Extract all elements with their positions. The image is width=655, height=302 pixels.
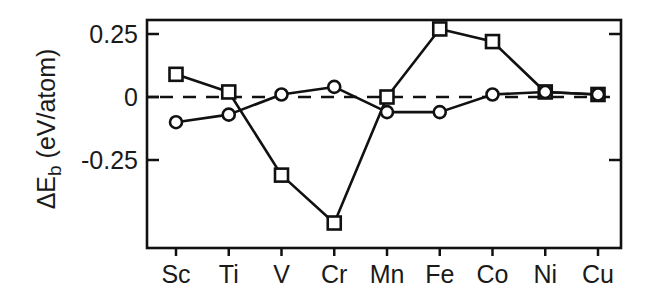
x-axis-ticks: ScTiVCrMnFeCoNiCu: [161, 248, 614, 288]
circle-marker: [223, 109, 235, 121]
circle-marker: [276, 88, 288, 100]
x-tick-label-sc: Sc: [161, 260, 190, 288]
square-marker: [433, 22, 446, 35]
circle-marker: [434, 106, 446, 118]
square-marker: [486, 35, 499, 48]
y-axis-label: ΔEb (eV/atom): [32, 49, 65, 210]
series-squares: [170, 22, 605, 229]
y-tick-label: 0.25: [89, 20, 138, 48]
y-tick-label: 0: [124, 83, 138, 111]
x-tick-label-ti: Ti: [219, 260, 239, 288]
circle-marker: [381, 106, 393, 118]
svg-text:ΔEb (eV/atom): ΔEb (eV/atom): [32, 49, 65, 210]
series-line: [176, 29, 598, 223]
x-tick-label-cr: Cr: [321, 260, 347, 288]
square-marker: [170, 68, 183, 81]
x-tick-label-mn: Mn: [370, 260, 405, 288]
plot-frame: [147, 20, 621, 248]
x-tick-label-fe: Fe: [425, 260, 454, 288]
x-tick-label-cu: Cu: [582, 260, 614, 288]
circle-marker: [539, 86, 551, 98]
circle-marker: [592, 88, 604, 100]
y-axis-label-suffix: (eV/atom): [32, 49, 60, 166]
plot-series: [170, 22, 605, 229]
x-tick-label-v: V: [273, 260, 290, 288]
square-marker: [381, 91, 394, 104]
square-marker: [275, 169, 288, 182]
square-marker: [328, 217, 341, 230]
x-tick-label-ni: Ni: [533, 260, 557, 288]
y-tick-label: -0.25: [81, 146, 138, 174]
circle-marker: [170, 116, 182, 128]
circle-marker: [487, 88, 499, 100]
chart: ΔEb (eV/atom) 0.250-0.25 ScTiVCrMnFeCoNi…: [0, 0, 655, 302]
y-axis-label-prefix: ΔE: [32, 176, 60, 209]
square-marker: [222, 85, 235, 98]
y-axis-label-subscript: b: [44, 165, 65, 176]
x-tick-label-co: Co: [477, 260, 509, 288]
circle-marker: [328, 81, 340, 93]
